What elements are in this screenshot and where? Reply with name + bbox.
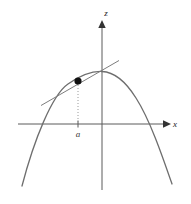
x-axis-arrow-icon <box>163 120 171 128</box>
graph-figure: x z a <box>0 0 191 204</box>
x-tick-label-a: a <box>76 129 81 139</box>
parabola-curve <box>22 71 172 186</box>
z-axis-label: z <box>103 8 108 18</box>
z-axis-arrow-icon <box>98 20 105 28</box>
x-axis-label: x <box>172 119 177 129</box>
tangency-point-marker <box>74 77 81 84</box>
figure-container: x z a <box>0 0 191 204</box>
